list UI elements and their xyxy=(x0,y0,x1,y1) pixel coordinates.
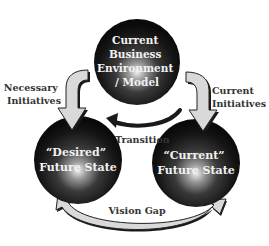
current-initiatives-label: Current Initiatives xyxy=(212,85,266,109)
node-label: Current xyxy=(112,34,158,46)
transition-label: Transition xyxy=(115,134,170,145)
transition-arrow-icon xyxy=(106,110,180,128)
node-label: “Desired” xyxy=(46,146,106,159)
business-transition-diagram: “Desired” Future State “Current” Future … xyxy=(0,0,269,246)
necessary-initiatives-label: Necessary Initiatives xyxy=(4,82,61,106)
node-label: Future State xyxy=(157,164,235,177)
node-label: Business xyxy=(109,48,162,60)
current-business-environment-node: Current Business Environment / Model xyxy=(94,19,180,105)
node-label: “Current” xyxy=(164,149,225,162)
current-future-state-node: “Current” Future State xyxy=(152,119,240,207)
vision-gap-label: Vision Gap xyxy=(107,205,166,216)
node-label: Environment xyxy=(97,62,173,74)
desired-future-state-node: “Desired” Future State xyxy=(34,116,122,204)
node-label: Future State xyxy=(39,161,117,174)
node-label: / Model xyxy=(115,76,159,88)
